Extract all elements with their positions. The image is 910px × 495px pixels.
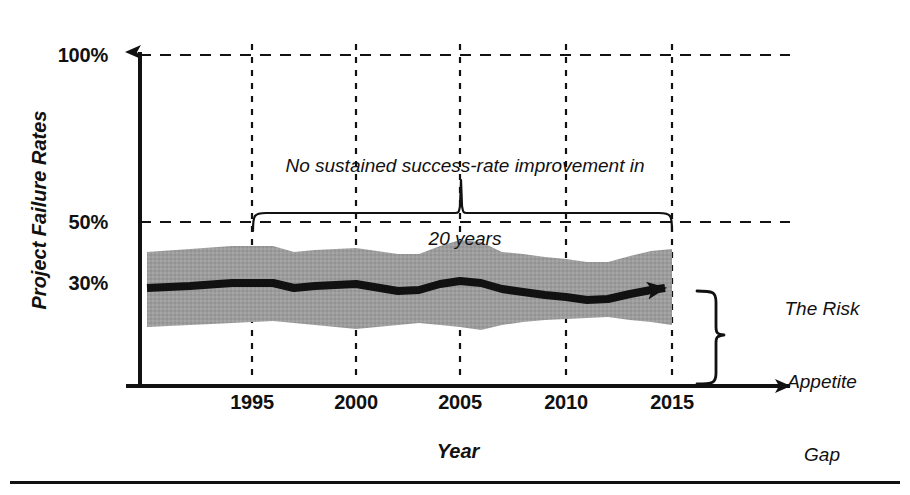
right-callout-line-1: The Risk (742, 297, 902, 321)
x-tick-label-2005: 2005 (415, 391, 505, 414)
x-tick-label-2000: 2000 (311, 391, 401, 414)
y-tick-label-100: 100% (20, 44, 108, 67)
top-callout: No sustained success-rate improvement in… (255, 105, 675, 300)
right-callout-line-3: Gap (742, 443, 902, 467)
y-axis-title: Project Failure Rates (28, 80, 51, 340)
x-tick-label-2015: 2015 (627, 391, 717, 414)
top-callout-line-2: 20 years (255, 227, 675, 251)
risk-appetite-gap-brace (697, 291, 724, 384)
right-callout-line-2: Appetite (742, 370, 902, 394)
page-bottom-rule (10, 481, 900, 484)
top-callout-line-1: No sustained success-rate improvement in (255, 154, 675, 178)
x-axis-title: Year (378, 440, 538, 463)
risk-appetite-gap-callout: The Risk Appetite Gap – average losses 3… (742, 248, 902, 495)
chart-figure: 100% 50% 30% 1995 2000 2005 2010 2015 Pr… (0, 0, 910, 495)
x-tick-label-2010: 2010 (521, 391, 611, 414)
x-tick-label-1995: 1995 (207, 391, 297, 414)
